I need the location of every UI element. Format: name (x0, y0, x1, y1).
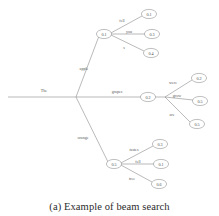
edge-label-top-child-3: s (123, 45, 125, 50)
edge-root-to-orange (76, 97, 109, 164)
node-middle-leaf-3: 0.5 (189, 119, 204, 128)
edge-top-child-3 (109, 34, 144, 51)
edge-label-top-child-1: fell (119, 18, 125, 23)
node-middle-leaf-1: 0.2 (191, 73, 206, 82)
edge-label-grapes: grapes (112, 89, 123, 94)
edge-label-root: The (41, 88, 48, 93)
node-branch-middle: 0.2 (140, 92, 155, 101)
edge-middle-child-3 (165, 97, 190, 122)
node-label: 0.4 (148, 51, 153, 56)
node-label: 0.3 (149, 32, 154, 37)
edge-label-bottom-child-1: tastes (129, 147, 139, 152)
edge-bottom-child-3 (119, 164, 152, 182)
node-bottom-leaf-1: 0.3 (152, 139, 167, 148)
node-top-leaf-3: 0.4 (143, 48, 158, 57)
node-label: 0.5 (111, 162, 116, 167)
beam-search-figure: The apple grapes orange fell you s were … (0, 0, 219, 216)
node-label: 0.2 (145, 95, 150, 100)
node-bottom-leaf-3: 0.6 (151, 179, 166, 188)
node-label: 0.1 (158, 162, 163, 167)
node-label: 0.6 (156, 182, 161, 187)
node-label: 0.1 (146, 12, 151, 17)
edge-label-bottom-child-2: fell (135, 159, 141, 164)
node-branch-top: 0.1 (96, 29, 111, 38)
node-label: 0.2 (196, 76, 201, 81)
beam-search-tree: The apple grapes orange fell you s were … (0, 0, 219, 216)
node-top-leaf-1: 0.1 (141, 9, 156, 18)
node-top-leaf-2: 0.3 (144, 29, 159, 38)
node-middle-leaf-2: 0.5 (192, 96, 207, 105)
edge-label-top-child-2: you (126, 29, 132, 34)
node-label: 0.5 (194, 122, 199, 127)
edge-label-middle-child-2: grow (173, 93, 181, 98)
node-label: 0.1 (101, 32, 106, 37)
edge-label-middle-child-1: were (169, 80, 177, 85)
edge-label-middle-child-3: are (170, 112, 175, 117)
node-branch-bottom: 0.5 (106, 159, 121, 168)
edge-label-orange: orange (77, 135, 88, 140)
node-label: 0.3 (157, 142, 162, 147)
node-label: 0.5 (197, 99, 202, 104)
figure-caption: (a) Example of beam search (0, 201, 219, 212)
node-bottom-leaf-2: 0.1 (153, 159, 168, 168)
edge-label-apple: apple (80, 66, 89, 71)
edge-label-bottom-child-3: tree (129, 176, 135, 181)
